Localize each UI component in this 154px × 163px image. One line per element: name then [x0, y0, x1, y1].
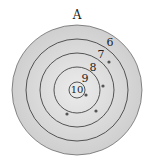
hit-marker — [84, 93, 87, 96]
ring-label-10: 10 — [71, 84, 84, 95]
ring-label-6: 6 — [107, 36, 114, 49]
ring-label-8: 8 — [90, 61, 97, 74]
ring-label-7: 7 — [98, 48, 105, 61]
hit-marker — [94, 109, 97, 112]
hit-marker — [107, 60, 110, 63]
target-title: A — [72, 8, 82, 22]
target-diagram: A 678910 — [0, 0, 154, 163]
hit-marker — [65, 112, 68, 115]
hit-marker — [101, 84, 104, 87]
